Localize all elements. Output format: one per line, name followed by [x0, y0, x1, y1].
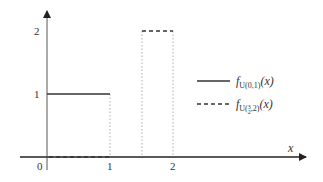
tick-y-2: 2	[34, 25, 40, 37]
tick-x-2: 2	[170, 160, 176, 172]
legend: fU(0,1)(x) fU(32,2)(x)	[197, 74, 274, 115]
tick-x-1: 1	[107, 160, 113, 172]
legend-solid-label: fU(0,1)(x)	[236, 74, 274, 90]
legend-dashed-label: fU(32,2)(x)	[236, 97, 273, 115]
tick-y-1: 1	[34, 88, 40, 100]
chart: 0 1 2 1 2 x fU(0,1)(x) fU(32,2)(x)	[0, 0, 323, 182]
guide-lines	[110, 31, 173, 157]
x-axis-label: x	[287, 141, 294, 155]
tick-x-0: 0	[37, 160, 43, 172]
